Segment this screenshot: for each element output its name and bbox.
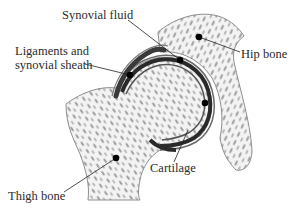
hip-joint-diagram: [0, 0, 292, 209]
label-synovial-fluid: Synovial fluid: [62, 8, 133, 22]
dot-thigh-bone: [113, 155, 120, 162]
label-ligaments-line1: Ligaments and: [15, 44, 89, 58]
dot-ligaments: [127, 72, 134, 79]
label-ligaments-line2: synovial sheath: [15, 58, 92, 72]
label-thigh-bone: Thigh bone: [8, 189, 65, 203]
dot-synovial-fluid: [177, 57, 184, 64]
dot-hip-bone: [196, 34, 203, 41]
thigh-bone-shape: [66, 57, 211, 200]
label-hip-bone: Hip bone: [241, 47, 287, 61]
label-cartilage: Cartilage: [150, 161, 196, 175]
dot-cartilage: [202, 100, 209, 107]
